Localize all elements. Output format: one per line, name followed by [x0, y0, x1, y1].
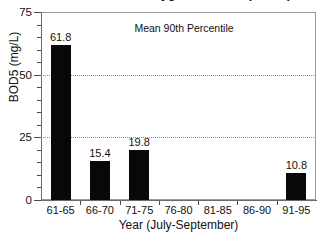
plot-area: [41, 12, 316, 200]
bar-66-70: [90, 161, 110, 200]
x-tick-label-86-90: 86-90: [237, 205, 276, 216]
gridline-50: [41, 75, 316, 76]
y-axis-title: BOD5 (mg/L): [7, 2, 21, 132]
y-tick-35: [37, 112, 41, 113]
bar-value-label-91-95: 10.8: [277, 160, 316, 171]
y-tick-75: [34, 12, 41, 13]
bar-61-65: [51, 45, 71, 200]
gridline-25: [41, 137, 316, 138]
x-tick-label-71-75: 71-75: [120, 205, 159, 216]
y-tick-20: [37, 150, 41, 151]
y-tick-55: [37, 62, 41, 63]
x-axis-title: Year (July-September): [41, 218, 316, 232]
y-tick-10: [37, 175, 41, 176]
x-tick-label-76-80: 76-80: [159, 205, 198, 216]
bar-value-label-71-75: 19.8: [120, 137, 159, 148]
annotation-mean-90th-percentile: Mean 90th Percentile: [134, 23, 233, 34]
x-tick-label-61-65: 61-65: [41, 205, 80, 216]
y-tick-label-25: 25: [19, 132, 32, 144]
bar-value-label-66-70: 15.4: [80, 148, 119, 159]
y-tick-60: [37, 50, 41, 51]
y-tick-30: [37, 125, 41, 126]
y-tick-40: [37, 100, 41, 101]
x-axis-line: [41, 200, 317, 201]
y-tick-15: [37, 162, 41, 163]
y-tick-label-0: 0: [26, 195, 32, 207]
bar-91-95: [286, 173, 306, 200]
y-tick-0: [34, 200, 41, 201]
y-tick-50: [34, 75, 41, 76]
x-tick-label-91-95: 91-95: [277, 205, 316, 216]
y-tick-label-75: 75: [19, 7, 32, 19]
y-tick-70: [37, 25, 41, 26]
x-tick-label-66-70: 66-70: [80, 205, 119, 216]
y-tick-label-50: 50: [19, 70, 32, 82]
chart-figure: Biochemical Oxygen Demand (BOD5) BOD5 (m…: [0, 0, 318, 236]
y-tick-45: [37, 87, 41, 88]
bar-71-75: [129, 150, 149, 200]
y-tick-5: [37, 187, 41, 188]
x-tick-label-81-85: 81-85: [198, 205, 237, 216]
chart-title: Biochemical Oxygen Demand (BOD5): [41, 0, 316, 1]
y-tick-25: [34, 137, 41, 138]
bar-value-label-61-65: 61.8: [41, 32, 80, 43]
